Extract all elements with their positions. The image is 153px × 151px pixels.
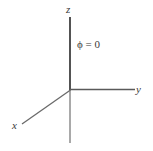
coordinate-axes-figure: z y x ϕ = 0 (0, 0, 153, 151)
phi-angle-annotation: ϕ = 0 (77, 39, 100, 50)
x-axis-label: x (12, 120, 17, 131)
y-axis-label: y (136, 84, 141, 95)
figure-background (0, 0, 153, 151)
z-axis-label: z (66, 4, 70, 15)
axes-drawing (0, 0, 153, 151)
